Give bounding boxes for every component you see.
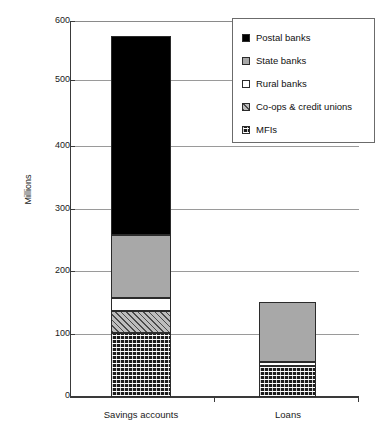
ytick-label-100: 100: [34, 329, 70, 338]
legend-item-state-banks: State banks: [242, 49, 374, 72]
y-axis-title: Millions: [24, 150, 33, 230]
ytick-label-0: 0: [34, 391, 70, 400]
xtick-mark-center: [214, 397, 215, 402]
ytick-mark-600: [70, 21, 75, 22]
legend-swatch-mfis-icon: [242, 126, 250, 134]
legend-item-mfis: MFIs: [242, 118, 374, 141]
legend: Postal banks State banks Rural banks Co-…: [232, 18, 375, 143]
segment-loans-mfis: [259, 366, 316, 397]
bar-loans: [259, 302, 316, 397]
ytick-mark-100: [70, 334, 75, 335]
segment-savings-coops-credit-unions: [111, 311, 171, 333]
ytick-label-500: 500: [34, 75, 70, 84]
ytick-label-300: 300: [34, 204, 70, 213]
legend-swatch-rural-banks-icon: [242, 80, 250, 88]
segment-savings-rural-banks: [111, 298, 171, 311]
legend-item-rural-banks: Rural banks: [242, 72, 374, 95]
xtick-label-loans: Loans: [238, 409, 338, 420]
xtick-label-savings-accounts: Savings accounts: [81, 409, 201, 420]
legend-label-coops-credit-unions: Co-ops & credit unions: [256, 102, 352, 112]
legend-swatch-coops-credit-unions-icon: [242, 103, 250, 111]
legend-swatch-state-banks-icon: [242, 57, 250, 65]
bar-savings-accounts: [111, 36, 171, 397]
legend-item-postal-banks: Postal banks: [242, 26, 374, 49]
legend-label-mfis: MFIs: [256, 125, 277, 135]
ytick-mark-500: [70, 80, 75, 81]
segment-savings-postal-banks: [111, 36, 171, 235]
ytick-mark-0: [70, 396, 75, 397]
legend-label-rural-banks: Rural banks: [256, 79, 307, 89]
legend-label-state-banks: State banks: [256, 56, 306, 66]
ytick-label-200: 200: [34, 266, 70, 275]
stacked-bar-chart: 600 500 400 300 200 100 0 Millions: [0, 0, 375, 437]
legend-label-postal-banks: Postal banks: [256, 33, 310, 43]
xtick-mark-right: [358, 397, 359, 402]
legend-item-coops-credit-unions: Co-ops & credit unions: [242, 95, 374, 118]
ytick-mark-200: [70, 271, 75, 272]
ytick-label-600: 600: [34, 16, 70, 25]
legend-swatch-postal-banks-icon: [242, 34, 250, 42]
segment-savings-state-banks: [111, 235, 171, 298]
ytick-label-400: 400: [34, 141, 70, 150]
segment-savings-mfis: [111, 333, 171, 397]
segment-loans-state-banks: [259, 302, 316, 362]
ytick-mark-300: [70, 209, 75, 210]
ytick-mark-400: [70, 146, 75, 147]
